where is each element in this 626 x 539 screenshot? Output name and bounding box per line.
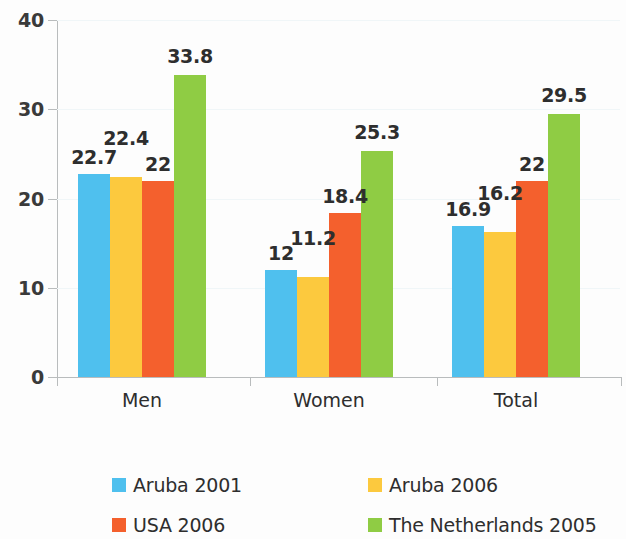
y-axis-tick-label: 30 (0, 98, 44, 120)
y-axis-tick-label: 20 (0, 188, 44, 210)
y-axis-tick-mark (48, 199, 57, 200)
legend-label: Aruba 2001 (133, 474, 242, 496)
legend-item[interactable]: The Netherlands 2005 (368, 514, 597, 536)
bar-value-label: 29.5 (534, 84, 594, 106)
gridline (57, 109, 620, 110)
y-axis-tick-labels: 010203040 (0, 0, 45, 539)
category-separator (437, 377, 438, 386)
y-axis-tick-mark (48, 288, 57, 289)
bar[interactable] (174, 75, 206, 377)
legend-swatch-icon (368, 518, 382, 532)
legend-item[interactable]: Aruba 2001 (112, 474, 242, 496)
bar-value-label: 22 (128, 153, 188, 175)
bar[interactable] (265, 270, 297, 377)
bar-value-label: 22.4 (96, 127, 156, 149)
category-separator (250, 377, 251, 386)
category-separator (57, 377, 58, 386)
bar-value-label: 33.8 (160, 45, 220, 67)
bar-value-label: 22.7 (64, 146, 124, 168)
legend-swatch-icon (112, 478, 126, 492)
bar-value-label: 18.4 (315, 185, 375, 207)
y-axis-tick-mark (48, 377, 57, 378)
x-axis-category-label: Women (259, 389, 399, 411)
bar[interactable] (516, 181, 548, 377)
bar-value-label: 25.3 (347, 121, 407, 143)
legend-swatch-icon (112, 518, 126, 532)
bar[interactable] (110, 177, 142, 377)
x-axis-category-label: Men (72, 389, 212, 411)
gridline (57, 20, 620, 21)
legend-swatch-icon (368, 478, 382, 492)
category-separator (621, 377, 622, 386)
bar-value-label: 22 (502, 153, 562, 175)
bar[interactable] (78, 174, 110, 377)
legend-label: USA 2006 (133, 514, 225, 536)
legend-label: Aruba 2006 (389, 474, 498, 496)
bar[interactable] (297, 277, 329, 377)
x-axis-category-label: Total (446, 389, 586, 411)
bar-chart: 010203040 22.722.42233.81211.218.425.316… (0, 0, 626, 539)
legend-item[interactable]: USA 2006 (112, 514, 225, 536)
y-axis-tick-label: 10 (0, 277, 44, 299)
bar[interactable] (484, 232, 516, 377)
bar-value-label: 11.2 (283, 227, 343, 249)
y-axis-tick-label: 0 (0, 366, 44, 388)
legend-label: The Netherlands 2005 (389, 514, 597, 536)
bar[interactable] (142, 181, 174, 377)
plot-area: 22.722.42233.81211.218.425.316.916.22229… (57, 20, 620, 377)
bar-value-label: 16.2 (470, 182, 530, 204)
y-axis-tick-mark (48, 20, 57, 21)
legend-item[interactable]: Aruba 2006 (368, 474, 498, 496)
bar[interactable] (452, 226, 484, 377)
y-axis-tick-mark (48, 109, 57, 110)
x-axis-line (57, 377, 621, 378)
y-axis-tick-label: 40 (0, 9, 44, 31)
